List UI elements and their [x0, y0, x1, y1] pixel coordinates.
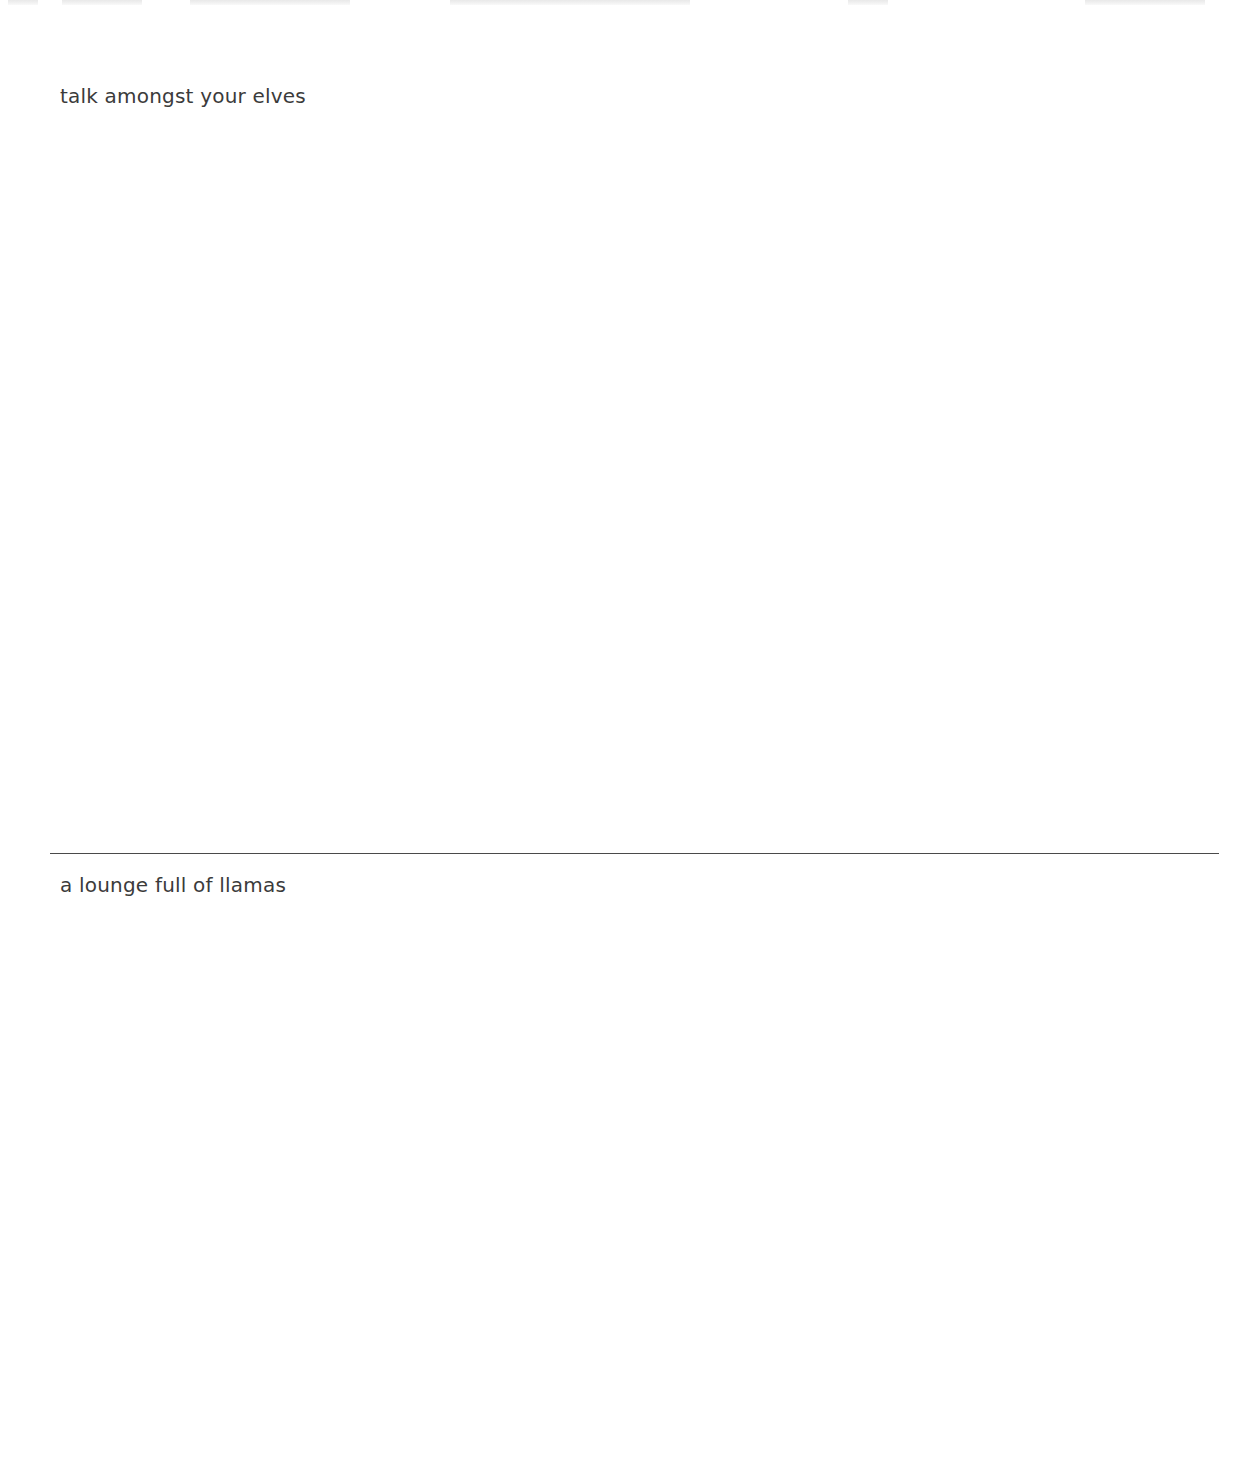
section-elves: talk amongst your elves — [0, 0, 1246, 853]
image-area — [50, 915, 1219, 1455]
section-caption: a lounge full of llamas — [60, 873, 286, 897]
section-llamas: a lounge full of llamas — [0, 855, 1246, 1465]
image-area — [50, 125, 1219, 840]
section-caption: talk amongst your elves — [60, 84, 306, 108]
section-divider — [50, 853, 1219, 854]
